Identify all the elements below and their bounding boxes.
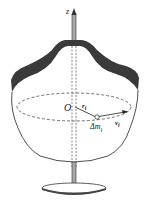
axis-rod-bottom bbox=[72, 162, 76, 186]
radius-label: ri bbox=[82, 103, 86, 112]
radius-subscript: i bbox=[85, 105, 87, 111]
mass-element bbox=[95, 115, 99, 119]
axis-rod-top bbox=[72, 14, 76, 44]
rotation-circle bbox=[17, 93, 131, 121]
axis-arrow-icon bbox=[72, 8, 77, 15]
mass-label: Δmi bbox=[90, 123, 102, 133]
mass-subscript: i bbox=[100, 126, 102, 133]
shaded-top-band bbox=[11, 40, 139, 92]
mass-symbol: Δm bbox=[90, 122, 100, 131]
velocity-subscript: i bbox=[118, 122, 120, 128]
axis-label: z bbox=[66, 8, 69, 16]
origin-label: O bbox=[64, 103, 71, 113]
velocity-label: vi bbox=[115, 120, 120, 129]
rotating-body-diagram: z O ri Δmi vi bbox=[0, 0, 147, 202]
velocity-vector bbox=[99, 112, 125, 117]
diagram-canvas bbox=[0, 0, 147, 202]
